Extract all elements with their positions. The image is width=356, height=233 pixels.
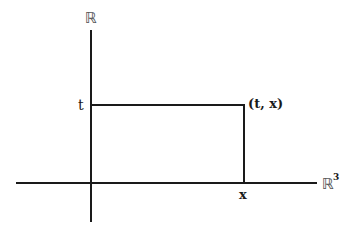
t-label: t [78,97,84,113]
vertical-axis-label: ℝ [85,9,97,27]
horizontal-axis-superscript: 3 [333,172,339,182]
x-label: x [239,187,247,202]
point-label: (t, x) [248,96,283,111]
diagram-canvas: ℝ ℝ 3 t x (t, x) [0,0,356,233]
